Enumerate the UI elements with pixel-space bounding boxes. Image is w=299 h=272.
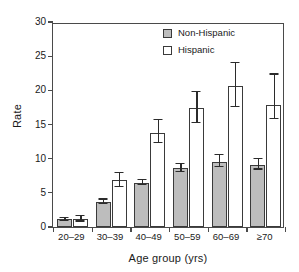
y-tick-mark [48,90,53,91]
legend-swatch-hispanic [163,46,172,55]
error-bar-cap-lower [60,220,69,221]
y-tick-label: 15 [22,118,46,131]
x-tick-label: 20–29 [58,231,84,242]
y-tick-label: 30 [22,15,46,28]
x-tick-label: 30–39 [97,231,123,242]
error-bar-cap-lower [253,168,262,169]
error-bar-cap-upper [192,91,201,92]
chart-legend: Non-Hispanic Hispanic [163,26,235,60]
y-tick-label: 20 [22,83,46,96]
error-bar-cap-lower [215,166,224,167]
x-axis-label: Age group (yrs) [52,252,284,264]
bar-non-hispanic [134,183,149,227]
y-tick-mark [48,56,53,57]
error-bar-cap-lower [153,142,162,143]
error-bar-cap-upper [153,119,162,120]
bar-non-hispanic [250,165,265,227]
bar-non-hispanic [212,162,227,227]
error-bar-cap-upper [215,154,224,155]
legend-item-non-hispanic: Non-Hispanic [163,26,235,40]
error-bar-cap-lower [99,203,108,204]
error-bar [235,63,236,107]
x-tick-mark [130,227,131,232]
x-tick-label: 60–69 [213,231,239,242]
error-bar-cap-upper [76,215,85,216]
error-bar-cap-upper [269,73,278,74]
error-bar-cap-lower [137,184,146,185]
bar-hispanic [228,86,243,227]
legend-label-non-hispanic: Non-Hispanic [178,26,235,40]
x-tick-label: 40–49 [135,231,161,242]
y-tick-mark [48,192,53,193]
bar-non-hispanic [96,202,111,227]
error-bar-cap-upper [231,62,240,63]
x-tick-mark [208,227,209,232]
chart-figure: Rate Age group (yrs) 051015202530 20–293… [0,0,299,272]
error-bar [158,120,159,143]
y-tick-mark [48,21,53,22]
y-tick-label: 0 [22,220,46,233]
x-tick-label: 50–59 [174,231,200,242]
error-bar-cap-lower [192,122,201,123]
x-tick-mark [92,227,93,232]
error-bar-cap-upper [60,217,69,218]
error-bar-cap-lower [76,220,85,221]
legend-item-hispanic: Hispanic [163,43,235,57]
y-tick-mark [48,124,53,125]
error-bar [196,92,197,123]
y-tick-label: 10 [22,152,46,165]
error-bar-cap-upper [115,172,124,173]
bar-hispanic [112,180,127,227]
error-bar-cap-lower [269,118,278,119]
y-tick-label: 25 [22,49,46,62]
y-tick-mark [48,158,53,159]
x-tick-mark [285,227,286,232]
error-bar-cap-lower [231,106,240,107]
bar-non-hispanic [173,168,188,227]
y-tick-label: 5 [22,186,46,199]
error-bar-cap-upper [253,158,262,159]
x-tick-mark [246,227,247,232]
x-tick-mark [169,227,170,232]
x-tick-label: ≥70 [257,231,273,242]
error-bar-cap-upper [99,198,108,199]
error-bar-cap-lower [176,171,185,172]
error-bar-cap-lower [115,186,124,187]
x-tick-mark [53,227,54,232]
legend-label-hispanic: Hispanic [178,43,214,57]
error-bar-cap-upper [137,179,146,180]
bar-hispanic [189,108,204,227]
bar-hispanic [266,105,281,227]
bar-hispanic [150,133,165,227]
error-bar [274,75,275,119]
error-bar-cap-upper [176,163,185,164]
legend-swatch-non-hispanic [163,29,172,38]
